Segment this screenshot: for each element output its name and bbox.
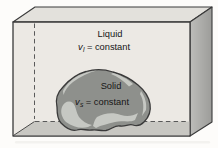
solid-var-subscript: s <box>80 101 84 108</box>
solid-label: Solid <box>101 81 122 91</box>
liquid-equation-text: = constant <box>87 42 131 52</box>
figure-canvas: Liquid vl= constant Solid vs= constant <box>0 0 218 148</box>
page-shadow-artifact <box>15 141 210 143</box>
solid-equation-text: = constant <box>86 97 130 107</box>
tank-top-face <box>13 7 212 22</box>
tank-right-face <box>190 7 212 136</box>
incompressible-substance-figure: Liquid vl= constant Solid vs= constant <box>0 0 218 148</box>
liquid-label: Liquid <box>98 29 123 39</box>
